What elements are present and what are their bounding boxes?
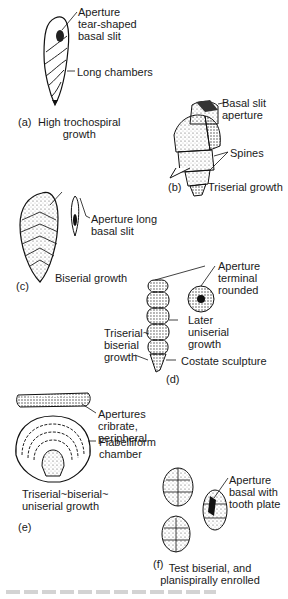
panel-tag-e: (e) (18, 521, 31, 533)
label-basal-slit-aperture: Basal slit aperture (222, 97, 266, 121)
label-line: Aperture (229, 474, 280, 486)
label-aperture-long-basal-slit: Aperture long basal slit (91, 213, 157, 237)
title-line: Test biserial, and (150, 562, 270, 574)
label-line: Basal slit (222, 97, 266, 109)
label-line: growth (104, 351, 149, 363)
label-triserial-biserial-growth: Triserial~ biserial growth (104, 327, 149, 363)
specimen-c-drawing (20, 192, 90, 282)
title-line: High trochospiral (38, 116, 121, 128)
panel-c-title: Biserial growth (55, 272, 127, 284)
figure-caption-illegible (6, 590, 216, 594)
label-line: Later (188, 314, 229, 326)
specimen-a-drawing (44, 12, 77, 105)
label-costate-sculpture: Costate sculpture (181, 355, 267, 367)
panel-tag-d: (d) (166, 373, 179, 385)
label-line: Aperture long (91, 213, 157, 225)
specimen-e-drawing (16, 393, 96, 482)
label-line: basal slit (91, 225, 157, 237)
label-line: uniserial (188, 326, 229, 338)
label-line: cribrate, (98, 420, 147, 432)
label-flabelliform-chamber: Flabelliform chamber (99, 436, 156, 460)
label-aperture-tear-shaped: Aperture tear-shaped basal slit (78, 6, 137, 42)
label-line: rounded (218, 284, 260, 296)
specimen-f-drawing (162, 468, 228, 552)
label-line: chamber (99, 448, 156, 460)
title-line: growth (38, 128, 121, 140)
label-aperture-terminal-rounded: Aperture terminal rounded (218, 260, 260, 296)
label-line: tear-shaped (78, 18, 137, 30)
label-spines: Spines (230, 147, 264, 159)
title-line: Triserial~biserial~ (22, 488, 108, 500)
label-line: Aperture (218, 260, 260, 272)
panel-tag-a: (a) (18, 116, 31, 128)
label-long-chambers: Long chambers (77, 66, 153, 78)
label-line: Aperture (78, 6, 137, 18)
label-line: tooth plate (229, 498, 280, 510)
label-line: terminal (218, 272, 260, 284)
label-line: Triserial~ (104, 327, 149, 339)
panel-f-title: Test biserial, and planispirally enrolle… (150, 562, 270, 586)
label-line: growth (188, 338, 229, 350)
panel-tag-b: (b) (168, 181, 181, 193)
label-line: biserial (104, 339, 149, 351)
panel-tag-c: (c) (16, 280, 29, 292)
panel-e-title: Triserial~biserial~ uniserial growth (22, 488, 108, 512)
label-later-uniserial-growth: Later uniserial growth (188, 314, 229, 350)
panel-a-title: High trochospiral growth (38, 116, 121, 140)
label-line: basal slit (78, 30, 137, 42)
label-line: aperture (222, 109, 266, 121)
title-line: planispirally enrolled (150, 574, 270, 586)
label-line: Apertures (98, 408, 147, 420)
label-aperture-basal-tooth-plate: Aperture basal with tooth plate (229, 474, 280, 510)
title-line: uniserial growth (22, 500, 108, 512)
label-line: Flabelliform (99, 436, 156, 448)
label-line: basal with (229, 486, 280, 498)
panel-b-title: Triserial growth (208, 181, 283, 193)
